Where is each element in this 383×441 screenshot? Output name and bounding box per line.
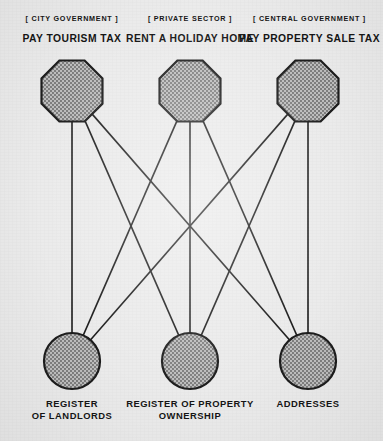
node-rent-a-holiday-home[interactable] <box>160 61 221 122</box>
bottom-label-line: REGISTER OF PROPERTY <box>122 398 258 410</box>
top-label-pay-property-sale-tax: [ CENTRAL GOVERNMENT ] PAY PROPERTY SALE… <box>236 14 383 45</box>
diagram-canvas: [ CITY GOVERNMENT ] PAY TOURISM TAX [ PR… <box>0 0 383 441</box>
graph-edge <box>90 114 287 340</box>
edge-layer <box>72 114 308 340</box>
node-register-of-property-ownership[interactable] <box>162 333 218 389</box>
bottom-label-register-of-property-ownership: REGISTER OF PROPERTY OWNERSHIP <box>122 398 258 421</box>
bipartite-graph <box>0 0 383 441</box>
bottom-label-line: ADDRESSES <box>240 398 376 410</box>
node-register-of-landlords[interactable] <box>44 333 100 389</box>
bottom-label-line: OWNERSHIP <box>122 410 258 422</box>
bottom-label-line: REGISTER <box>4 398 140 410</box>
kicker-central-government: [ CENTRAL GOVERNMENT ] <box>236 14 383 24</box>
bottom-label-register-of-landlords: REGISTER OF LANDLORDS <box>4 398 140 421</box>
graph-edge <box>202 119 297 335</box>
graph-edge <box>201 119 295 335</box>
graph-edge <box>83 119 178 335</box>
node-addresses[interactable] <box>280 333 336 389</box>
title-pay-property-sale-tax: PAY PROPERTY SALE TAX <box>236 32 383 45</box>
node-pay-tourism-tax[interactable] <box>42 61 103 122</box>
bottom-label-line: OF LANDLORDS <box>4 410 140 422</box>
bottom-label-addresses: ADDRESSES <box>240 398 376 410</box>
graph-edge <box>92 114 289 340</box>
graph-edge <box>84 119 178 335</box>
node-pay-property-sale-tax[interactable] <box>278 61 339 122</box>
